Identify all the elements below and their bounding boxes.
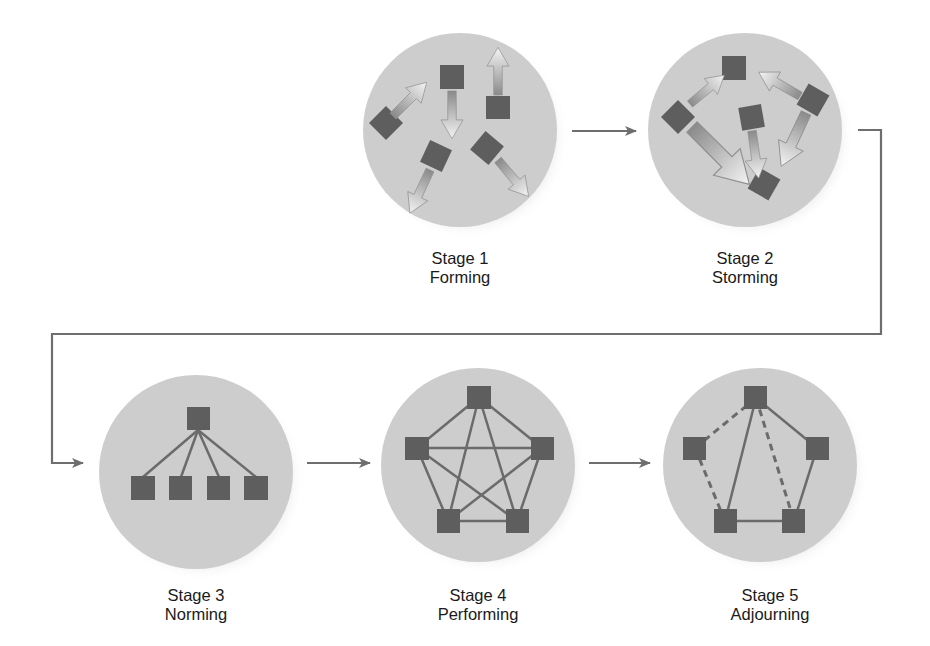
stage-number: Stage 4: [398, 586, 558, 605]
stage-3-label: Stage 3 Norming: [116, 586, 276, 624]
node-icon: [467, 386, 491, 409]
node-icon: [782, 509, 805, 533]
stage-1-label: Stage 1 Forming: [380, 249, 540, 287]
node-icon: [405, 437, 429, 460]
node-icon: [806, 437, 829, 460]
stage-name: Norming: [116, 605, 276, 624]
stage-number: Stage 2: [665, 249, 825, 268]
stage-name: Adjourning: [690, 605, 850, 624]
node-icon: [169, 476, 192, 500]
node-icon: [440, 65, 464, 89]
stage-3-norming-circle: [99, 375, 305, 581]
node-icon: [506, 509, 529, 533]
node-icon: [244, 476, 268, 500]
node-icon: [486, 96, 510, 119]
node-icon: [744, 386, 767, 409]
stage-name: Performing: [398, 605, 558, 624]
stage-2-label: Stage 2 Storming: [665, 249, 825, 287]
team-development-diagram: [0, 0, 930, 646]
stage-name: Forming: [380, 268, 540, 287]
node-icon: [683, 437, 706, 460]
node-icon: [531, 437, 554, 460]
stage-name: Storming: [665, 268, 825, 287]
node-icon: [437, 509, 460, 533]
stage-number: Stage 5: [690, 586, 850, 605]
stage-number: Stage 1: [380, 249, 540, 268]
stage-2-storming-circle: [648, 33, 854, 239]
node-icon: [738, 104, 765, 131]
stage-4-performing-circle: [381, 368, 587, 574]
stage-4-label: Stage 4 Performing: [398, 586, 558, 624]
node-icon: [131, 476, 155, 500]
stage-1-forming-circle: [363, 33, 569, 239]
leader-node-icon: [187, 407, 210, 430]
node-icon: [207, 476, 230, 500]
stage-5-label: Stage 5 Adjourning: [690, 586, 850, 624]
stage-number: Stage 3: [116, 586, 276, 605]
node-icon: [714, 509, 737, 533]
node-icon: [722, 56, 746, 80]
stage-5-adjourning-circle: [663, 368, 869, 574]
